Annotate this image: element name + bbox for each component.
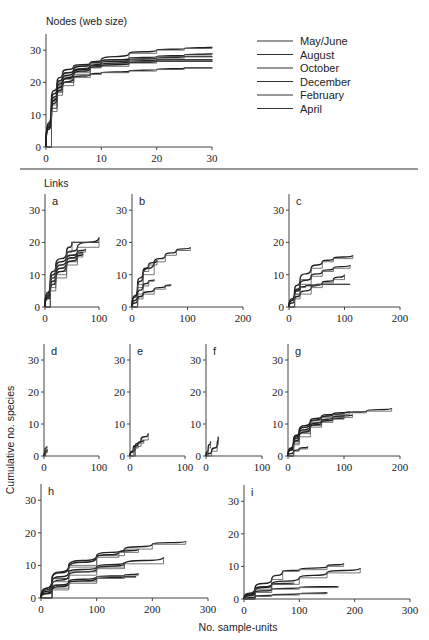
x-tick-label: 0 xyxy=(38,603,44,615)
legend-item: October xyxy=(300,62,339,74)
x-tick-label: 100 xyxy=(179,312,196,324)
y-tick-label: 20 xyxy=(228,528,240,540)
x-tick-label: 0 xyxy=(286,312,292,324)
y-tick-label: 30 xyxy=(116,204,128,216)
x-tick-label: 0 xyxy=(129,312,135,324)
x-tick-label: 300 xyxy=(402,604,419,616)
x-tick-label: 100 xyxy=(88,603,105,615)
x-tick-label: 0 xyxy=(43,152,49,164)
x-tick-label: 200 xyxy=(346,604,363,616)
panel-d: 01020300100d xyxy=(28,344,108,473)
y-tick-label: 0 xyxy=(34,450,40,462)
x-tick-label: 100 xyxy=(254,461,271,473)
y-tick-label: 0 xyxy=(36,141,42,153)
panel-h: 01020300100200300h xyxy=(25,484,217,615)
x-axis-label: No. sample-units xyxy=(199,621,278,633)
panel-a: 01020300100a xyxy=(29,194,108,324)
x-tick-label: 100 xyxy=(177,461,194,473)
x-tick-label: 100 xyxy=(91,312,108,324)
y-tick-label: 20 xyxy=(114,386,126,398)
y-tick-label: 20 xyxy=(273,236,285,248)
panel-g: 01020300100200g xyxy=(272,344,409,473)
y-tick-label: 20 xyxy=(30,76,42,88)
panels: 0102030010203001020300100a01020300100200… xyxy=(25,34,419,616)
x-tick-label: 20 xyxy=(151,152,163,164)
y-tick-label: 0 xyxy=(278,450,284,462)
fitted-curve xyxy=(41,549,138,598)
panel-label-e: e xyxy=(137,345,143,357)
y-tick-label: 30 xyxy=(190,354,202,366)
x-tick-label: 100 xyxy=(291,604,308,616)
y-tick-label: 30 xyxy=(272,354,284,366)
x-tick-label: 10 xyxy=(96,152,108,164)
panel-c: 01020300100200c xyxy=(273,194,409,324)
y-tick-label: 20 xyxy=(272,386,284,398)
legend-item: May/June xyxy=(300,35,348,47)
observed-step-line xyxy=(46,68,212,147)
legend-item: February xyxy=(300,89,345,101)
fitted-curve xyxy=(41,577,136,598)
panel-f: 01020300100f xyxy=(190,344,271,473)
y-tick-label: 20 xyxy=(28,386,40,398)
y-tick-label: 10 xyxy=(273,269,285,281)
legend-item: August xyxy=(300,49,334,61)
y-tick-label: 10 xyxy=(30,109,42,121)
x-tick-label: 0 xyxy=(127,461,133,473)
y-tick-label: 20 xyxy=(25,527,37,539)
y-tick-label: 10 xyxy=(114,418,126,430)
x-tick-label: 0 xyxy=(241,604,247,616)
y-tick-label: 10 xyxy=(116,269,128,281)
figure: Nodes (web size) Links May/JuneAugustOct… xyxy=(0,0,429,640)
y-tick-label: 10 xyxy=(190,418,202,430)
fitted-curve xyxy=(289,265,350,307)
x-tick-label: 0 xyxy=(285,461,291,473)
legend-item: December xyxy=(300,76,351,88)
panel-label-b: b xyxy=(139,195,145,207)
x-tick-label: 30 xyxy=(207,152,219,164)
observed-step-line xyxy=(46,57,212,147)
panel-b: 01020300100200b xyxy=(116,194,252,324)
y-tick-label: 30 xyxy=(25,494,37,506)
panel-label-a: a xyxy=(52,195,59,207)
y-tick-label: 20 xyxy=(29,236,41,248)
y-tick-label: 0 xyxy=(279,301,285,313)
x-tick-label: 200 xyxy=(144,603,161,615)
nodes-title: Nodes (web size) xyxy=(46,15,127,27)
y-tick-label: 10 xyxy=(25,559,37,571)
links-title: Links xyxy=(44,177,69,189)
y-tick-label: 20 xyxy=(190,386,202,398)
x-tick-label: 0 xyxy=(203,461,209,473)
observed-step-line xyxy=(289,265,350,307)
legend: May/JuneAugustOctoberDecemberFebruaryApr… xyxy=(257,35,351,115)
panel-nodes: 01020300102030 xyxy=(30,34,218,164)
y-tick-label: 30 xyxy=(114,354,126,366)
observed-step-line xyxy=(41,541,186,598)
y-tick-label: 0 xyxy=(196,450,202,462)
observed-step-line xyxy=(41,562,125,598)
panel-label-f: f xyxy=(213,345,217,357)
fitted-curve xyxy=(46,68,212,147)
panel-label-d: d xyxy=(51,345,57,357)
y-tick-label: 0 xyxy=(31,592,37,604)
y-axis-label: Cumulative no. species xyxy=(4,386,16,495)
x-tick-label: 200 xyxy=(235,312,252,324)
panel-label-c: c xyxy=(296,195,302,207)
fitted-curve xyxy=(46,57,212,147)
x-tick-label: 100 xyxy=(336,461,353,473)
y-tick-label: 30 xyxy=(30,44,42,56)
panel-i: 01020300100200300i xyxy=(228,485,419,616)
y-tick-label: 30 xyxy=(28,354,40,366)
y-tick-label: 0 xyxy=(122,301,128,313)
y-tick-label: 10 xyxy=(28,418,40,430)
y-tick-label: 30 xyxy=(228,495,240,507)
x-tick-label: 0 xyxy=(42,312,48,324)
x-tick-label: 200 xyxy=(392,312,409,324)
fitted-curve xyxy=(41,541,186,598)
panel-label-i: i xyxy=(251,486,253,498)
y-tick-label: 30 xyxy=(29,204,41,216)
y-tick-label: 10 xyxy=(272,418,284,430)
panel-e: 01020300100e xyxy=(114,344,194,473)
y-tick-label: 0 xyxy=(234,593,240,605)
y-tick-label: 10 xyxy=(29,269,41,281)
x-tick-label: 300 xyxy=(200,603,217,615)
